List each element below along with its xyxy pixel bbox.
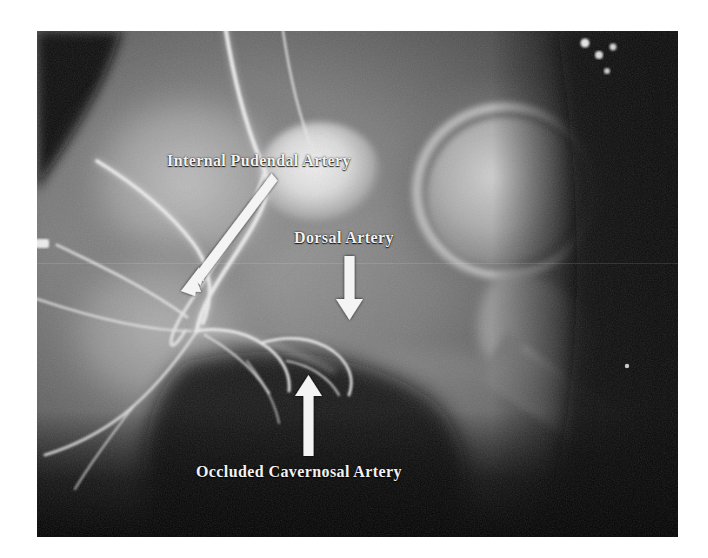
label-dorsal-artery: Dorsal Artery [294,229,394,247]
screenshot-page: Internal Pudendal Artery Dorsal Artery O… [0,0,708,558]
label-internal-pudendal-artery: Internal Pudendal Artery [167,152,351,170]
label-occluded-cavernosal-artery: Occluded Cavernosal Artery [196,463,402,481]
radiograph-image [37,31,678,537]
